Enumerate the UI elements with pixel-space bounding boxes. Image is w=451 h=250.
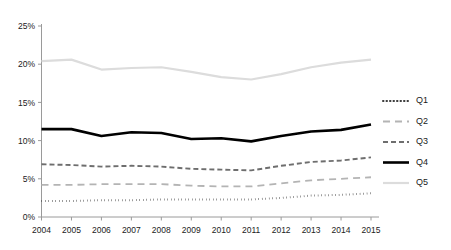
x-tick-label: 2008 — [152, 225, 171, 235]
x-tick-label: 2015 — [362, 225, 381, 235]
x-tick-label: 2012 — [272, 225, 291, 235]
series-line-q4 — [42, 125, 372, 142]
series-line-q3 — [42, 157, 372, 170]
y-tick-label: 25% — [18, 21, 35, 31]
legend-label-q5: Q5 — [416, 177, 428, 187]
x-tick-label: 2004 — [32, 225, 51, 235]
x-axis: 2004200520062007200820092010201120122013… — [32, 217, 381, 235]
x-tick-label: 2010 — [212, 225, 231, 235]
x-tick-label: 2007 — [122, 225, 141, 235]
y-tick-label: 15% — [18, 98, 35, 108]
legend-label-q3: Q3 — [416, 136, 428, 146]
y-tick-label: 10% — [18, 136, 35, 146]
series-line-q1 — [42, 193, 372, 201]
chart-legend: Q1Q2Q3Q4Q5 — [383, 95, 428, 187]
series-line-q2 — [42, 177, 372, 186]
y-tick-label: 20% — [18, 59, 35, 69]
x-tick-label: 2013 — [302, 225, 321, 235]
x-tick-label: 2009 — [182, 225, 201, 235]
line-chart: 0%5%10%15%20%25% 20042005200620072008200… — [0, 0, 451, 250]
chart-plot-area: 0%5%10%15%20%25% 20042005200620072008200… — [0, 0, 451, 250]
legend-label-q1: Q1 — [416, 95, 428, 105]
x-tick-label: 2011 — [242, 225, 261, 235]
x-tick-label: 2014 — [332, 225, 351, 235]
y-axis: 0%5%10%15%20%25% — [18, 21, 42, 222]
series-layer — [42, 60, 372, 201]
series-line-q5 — [42, 60, 372, 80]
x-tick-label: 2005 — [62, 225, 81, 235]
chart-canvas: 0%5%10%15%20%25% 20042005200620072008200… — [0, 0, 451, 250]
legend-label-q2: Q2 — [416, 116, 428, 126]
y-tick-label: 5% — [23, 174, 36, 184]
x-tick-label: 2006 — [92, 225, 111, 235]
legend-label-q4: Q4 — [416, 157, 428, 167]
y-tick-label: 0% — [23, 212, 36, 222]
